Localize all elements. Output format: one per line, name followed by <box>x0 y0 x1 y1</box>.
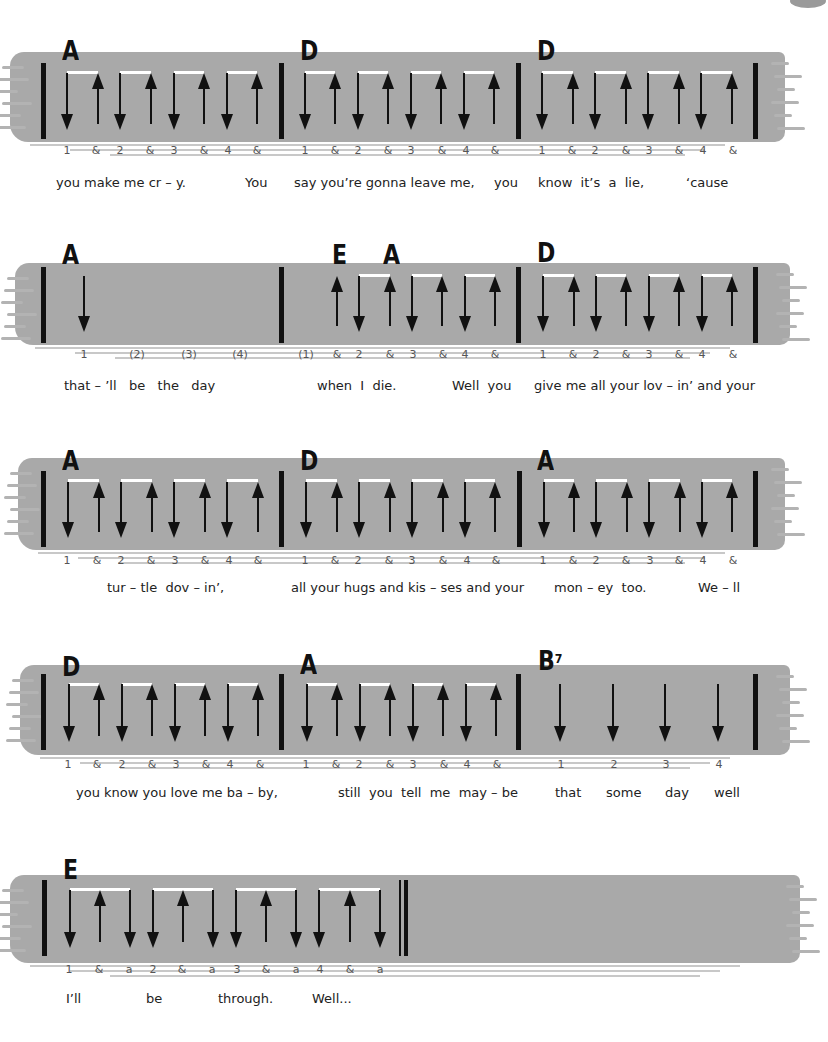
brush-fray <box>777 533 805 536</box>
up-strum-arrow-icon <box>331 276 343 332</box>
up-strum-arrow-icon <box>673 276 685 332</box>
up-strum-arrow-icon <box>145 73 157 130</box>
down-strum-arrow-icon <box>301 684 313 742</box>
brush-fray <box>774 114 792 117</box>
lyric-text: be <box>146 991 162 1006</box>
brush-fray <box>789 937 807 940</box>
beat-count: (3) <box>181 348 197 361</box>
brush-fray <box>2 66 24 69</box>
down-strum-arrow-icon <box>115 482 127 538</box>
beat-count: & <box>622 144 631 157</box>
beat-count: 3 <box>647 554 654 567</box>
beat-count: & <box>729 348 738 361</box>
beat-count: & <box>493 758 502 771</box>
up-strum-arrow-icon <box>252 482 264 538</box>
double-bar-line <box>399 880 401 956</box>
beat-count: 2 <box>119 758 126 771</box>
down-strum-arrow-icon <box>538 482 550 538</box>
lyric-text: say you’re gonna leave me, <box>294 175 475 190</box>
up-strum-arrow-icon <box>726 276 738 332</box>
up-strum-arrow-icon <box>199 482 211 538</box>
lyric-text: when I die. <box>317 378 396 393</box>
beat-count: & <box>148 758 157 771</box>
down-strum-arrow-icon <box>290 890 302 948</box>
down-strum-arrow-icon <box>407 684 419 742</box>
brush-fray <box>6 703 28 706</box>
chord-label: A <box>300 652 316 678</box>
brush-fray <box>774 481 802 484</box>
down-strum-arrow-icon <box>62 482 74 538</box>
chord-label: D <box>300 448 318 474</box>
bar-line <box>753 471 758 547</box>
beat-count: 4 <box>700 144 707 157</box>
chord-name: A <box>383 240 399 270</box>
lyric-text: you know you love me ba – by, <box>76 785 278 800</box>
up-strum-arrow-icon <box>726 73 738 130</box>
up-strum-arrow-icon <box>198 73 210 130</box>
down-strum-arrow-icon <box>300 482 312 538</box>
beat-count: & <box>439 348 448 361</box>
down-strum-arrow-icon <box>221 482 233 538</box>
down-strum-arrow-icon <box>78 276 90 332</box>
beat-count: & <box>438 144 447 157</box>
down-strum-arrow-icon <box>207 890 219 948</box>
strum-system-5: E1&a2&a3&a4&aI’llbethrough.Well... <box>0 845 828 1025</box>
beat-count: 3 <box>663 758 670 771</box>
down-strum-arrow-icon <box>230 890 242 948</box>
brush-fray <box>4 496 26 499</box>
chord-name: E <box>332 240 346 270</box>
beat-count: & <box>491 144 500 157</box>
down-strum-arrow-icon <box>222 684 234 742</box>
lyric-text: still you tell me may – be <box>338 785 518 800</box>
up-strum-arrow-icon <box>252 684 264 742</box>
beat-count: 3 <box>173 758 180 771</box>
lyric-text: Well you <box>452 378 511 393</box>
brush-streak <box>110 975 700 977</box>
lyric-text: We – ll <box>698 580 740 595</box>
lyric-text: Well... <box>312 991 352 1006</box>
down-strum-arrow-icon <box>61 73 73 130</box>
brush-fray <box>9 691 39 694</box>
bar-line <box>279 63 284 139</box>
brush-fray <box>774 75 802 78</box>
down-strum-arrow-icon <box>147 890 159 948</box>
bar-line <box>42 880 47 956</box>
brush-streak <box>110 154 685 156</box>
beat-count: & <box>622 348 631 361</box>
brush-band <box>10 52 785 142</box>
beat-count: & <box>331 144 340 157</box>
beat-count: 3 <box>646 348 653 361</box>
beat-count: 4 <box>463 144 470 157</box>
down-strum-arrow-icon <box>642 73 654 130</box>
beat-count: & <box>262 963 271 976</box>
brush-fray <box>776 714 804 717</box>
beat-count: & <box>256 758 265 771</box>
down-strum-arrow-icon <box>536 73 548 130</box>
lyric-text: that – ’ll be the day <box>64 378 215 393</box>
brush-fray <box>1 337 31 340</box>
up-strum-arrow-icon <box>251 73 263 130</box>
chord-name: A <box>62 240 78 270</box>
beat-count: 1 <box>540 348 547 361</box>
beat-count: 2 <box>611 758 618 771</box>
brush-fray <box>777 494 795 497</box>
down-strum-arrow-icon <box>313 890 325 948</box>
brush-fray <box>12 715 42 718</box>
double-bar-line <box>404 880 408 956</box>
beat-count: 2 <box>593 348 600 361</box>
brush-fray <box>6 739 36 742</box>
bar-line <box>753 63 758 139</box>
lyric-text: mon – ey too. <box>554 580 647 595</box>
brush-fray <box>10 508 40 511</box>
beat-count: 1 <box>66 963 73 976</box>
beat-count: 2 <box>117 144 124 157</box>
up-strum-arrow-icon <box>92 73 104 130</box>
brush-fray <box>1 301 23 304</box>
beat-count: 1 <box>64 554 71 567</box>
lyric-text: tur – tle dov – in’, <box>107 580 224 595</box>
beat-count: & <box>95 963 104 976</box>
beat-count: 4 <box>464 758 471 771</box>
chord-label: E <box>63 857 77 883</box>
beat-count: & <box>675 348 684 361</box>
down-strum-arrow-icon <box>459 482 471 538</box>
